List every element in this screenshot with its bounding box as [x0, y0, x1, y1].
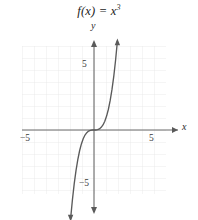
function-graph-figure: f(x) = x3 y x 5 −5 −5 5	[0, 0, 198, 220]
coordinate-plane	[0, 0, 198, 220]
y-axis-arrow-bottom-icon	[91, 207, 97, 214]
y-tick-label-5: 5	[82, 59, 87, 69]
y-axis-arrow-top-icon	[91, 40, 97, 47]
y-axis-label: y	[91, 20, 95, 31]
curve-arrow-top-icon	[115, 38, 120, 45]
x-tick-label-minus-5: −5	[20, 133, 30, 143]
x-axis-arrow-icon	[172, 127, 178, 133]
curve-arrow-bottom-icon	[68, 215, 73, 220]
x-axis-label: x	[182, 121, 186, 132]
x-tick-label-5: 5	[149, 133, 154, 143]
y-tick-label-minus-5: −5	[79, 178, 89, 188]
